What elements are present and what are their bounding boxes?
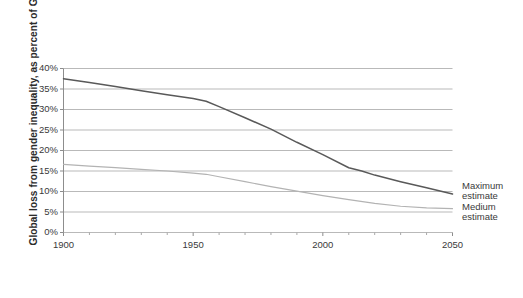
x-tick-label: 1950: [173, 239, 213, 250]
x-tick-label: 1900: [44, 239, 84, 250]
chart-container: Global loss from gender inequality, as p…: [0, 0, 523, 298]
legend-item-label-line2: estimate: [462, 212, 498, 223]
legend-item: Maximumestimate: [462, 181, 503, 202]
x-tick-label: 2050: [433, 239, 473, 250]
legend-item-label-line2: estimate: [462, 191, 503, 202]
legend-item: Mediumestimate: [462, 202, 498, 223]
x-tick-label: 2000: [303, 239, 343, 250]
x-axis-tick-labels: 1900195020002050: [0, 0, 523, 298]
